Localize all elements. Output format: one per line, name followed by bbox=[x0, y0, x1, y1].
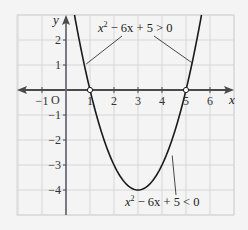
chart: −112345621−1−2−3−4 x y O x2 − 6x + 5 > 0… bbox=[0, 0, 248, 230]
x-tick-label: −1 bbox=[36, 94, 49, 108]
annotation-negative: x2 − 6x + 5 < 0 bbox=[124, 194, 199, 209]
leader-line bbox=[172, 156, 176, 196]
x-tick-label: 6 bbox=[207, 94, 213, 108]
x-tick-label: 5 bbox=[183, 94, 189, 108]
root-open-circle-icon bbox=[87, 87, 92, 92]
annotation-positive: x2 − 6x + 5 > 0 bbox=[97, 20, 172, 35]
y-tick-label: −2 bbox=[48, 133, 61, 147]
y-tick-label: 1 bbox=[55, 58, 61, 72]
y-tick-label: −3 bbox=[48, 158, 61, 172]
y-tick-label: 2 bbox=[55, 33, 61, 47]
root-open-circle-icon bbox=[183, 87, 188, 92]
x-tick-label: 3 bbox=[135, 94, 141, 108]
y-tick-label: −1 bbox=[48, 108, 61, 122]
y-axis-label: y bbox=[51, 12, 59, 27]
y-tick-label: −4 bbox=[48, 183, 61, 197]
origin-label: O bbox=[51, 93, 60, 107]
x-axis-label: x bbox=[228, 92, 235, 107]
x-tick-label: 1 bbox=[87, 94, 93, 108]
x-tick-label: 2 bbox=[111, 94, 117, 108]
x-tick-label: 4 bbox=[159, 94, 165, 108]
